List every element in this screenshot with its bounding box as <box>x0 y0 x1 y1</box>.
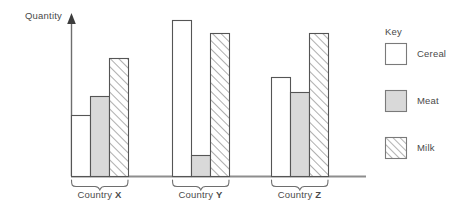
legend-swatch-meat <box>386 91 407 112</box>
category-label-country-y-prefix: Country <box>178 189 216 200</box>
category-label-country-z: Country Z <box>271 189 328 200</box>
legend-swatch-cereal <box>386 44 407 65</box>
bar-country-x-cereal <box>72 116 91 177</box>
category-label-country-x: Country X <box>71 189 128 200</box>
bar-group-country-z <box>272 34 329 177</box>
bar-country-y-milk <box>211 34 230 177</box>
bar-country-z-cereal <box>272 78 291 177</box>
category-label-country-x-prefix: Country <box>77 189 115 200</box>
category-label-country-x-code: X <box>115 189 122 200</box>
category-label-country-y: Country Y <box>172 189 229 200</box>
bar-country-z-milk <box>310 34 329 177</box>
category-label-country-z-prefix: Country <box>278 189 316 200</box>
legend-swatch-milk <box>386 138 407 159</box>
legend-label-meat: Meat <box>417 95 439 106</box>
bar-country-x-meat <box>91 97 110 177</box>
bar-country-y-cereal <box>173 21 192 177</box>
bar-chart: Quantity <box>0 0 452 205</box>
bar-country-y-meat <box>192 156 211 177</box>
legend-label-milk: Milk <box>417 142 435 153</box>
bar-group-country-x <box>72 59 129 177</box>
bar-group-country-y <box>173 21 230 177</box>
category-label-country-z-code: Z <box>315 189 321 200</box>
legend-label-cereal: Cereal <box>417 48 446 59</box>
bar-country-z-meat <box>291 93 310 177</box>
category-label-country-y-code: Y <box>216 189 223 200</box>
y-axis-arrow-icon <box>67 13 76 24</box>
legend-title: Key <box>385 26 402 37</box>
bar-country-x-milk <box>110 59 129 177</box>
